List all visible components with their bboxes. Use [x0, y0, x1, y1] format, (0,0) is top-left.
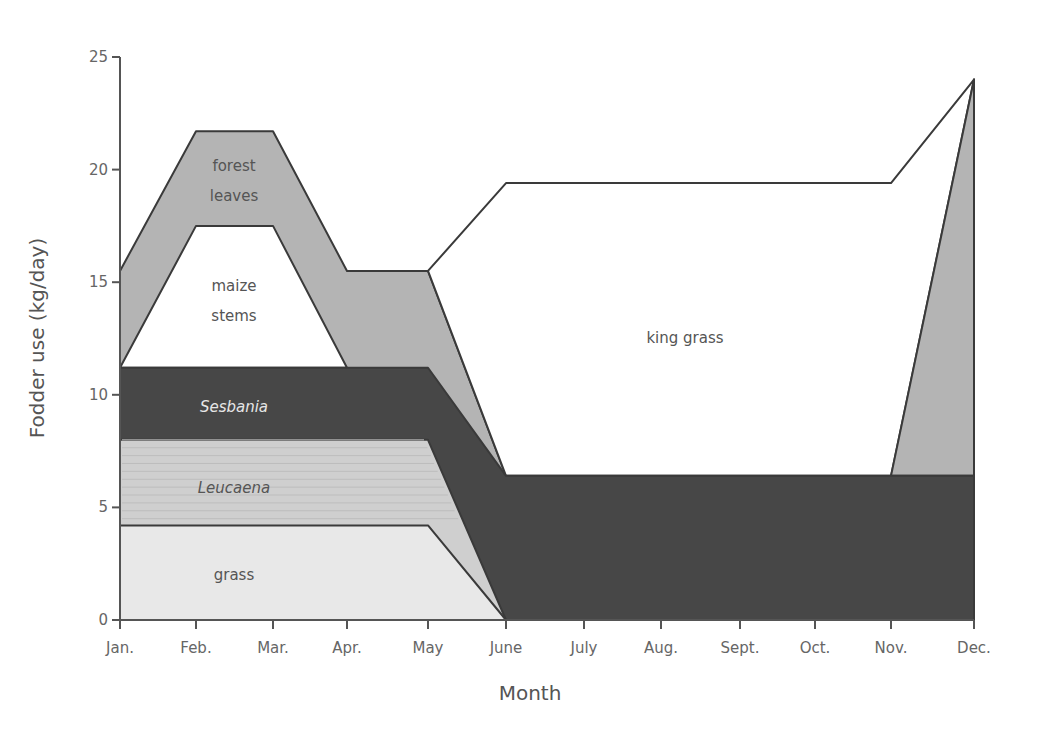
- area-king-grass: [428, 80, 974, 476]
- label-forest-leaves-line1: forest: [212, 157, 255, 175]
- x-tick-label: Sept.: [721, 639, 760, 657]
- x-tick-label: Mar.: [257, 639, 289, 657]
- x-tick-label: Oct.: [800, 639, 831, 657]
- label-maize-stems-line1: maize: [211, 277, 256, 295]
- x-tick-label: June: [489, 639, 523, 657]
- y-tick-label: 25: [89, 48, 108, 66]
- label-king-grass: king grass: [646, 329, 723, 347]
- x-tick-label: July: [570, 639, 598, 657]
- fodder-use-chart: 0510152025Jan.Feb.Mar.Apr.MayJuneJulyAug…: [0, 0, 1038, 746]
- y-axis-title: Fodder use (kg/day): [25, 238, 49, 438]
- x-tick-label: Nov.: [875, 639, 908, 657]
- y-tick-label: 15: [89, 273, 108, 291]
- x-tick-label: Feb.: [180, 639, 211, 657]
- label-maize-stems-line2: stems: [211, 307, 257, 325]
- y-tick-label: 5: [98, 498, 108, 516]
- label-grass: grass: [214, 566, 255, 584]
- y-tick-label: 20: [89, 161, 108, 179]
- y-tick-label: 10: [89, 386, 108, 404]
- x-tick-label: Dec.: [957, 639, 991, 657]
- x-tick-label: Jan.: [105, 639, 134, 657]
- label-sesbania: Sesbania: [200, 398, 268, 416]
- label-forest-leaves-line2: leaves: [210, 187, 259, 205]
- x-tick-label: Apr.: [332, 639, 361, 657]
- label-leucaena: Leucaena: [198, 479, 270, 497]
- x-axis-title: Month: [499, 681, 562, 705]
- x-tick-label: Aug.: [644, 639, 678, 657]
- x-tick-label: May: [412, 639, 443, 657]
- y-tick-label: 0: [98, 611, 108, 629]
